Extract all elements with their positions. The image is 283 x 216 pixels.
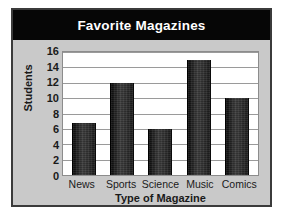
x-tick-label: Comics (220, 178, 258, 190)
chart-figure: Favorite Magazines Students 16 14 12 10 … (11, 8, 272, 207)
x-tick-label: News (63, 178, 101, 190)
y-tick-label: 2 (53, 155, 59, 166)
x-axis-label: Type of Magazine (62, 192, 259, 204)
bar (225, 98, 249, 175)
chart-title-banner: Favorite Magazines (13, 10, 270, 40)
x-tick-label: Music (181, 178, 219, 190)
y-tick-label: 4 (53, 139, 59, 150)
y-tick-label: 6 (53, 124, 59, 135)
y-axis-label: Students (22, 58, 34, 118)
x-tick-label: Sports (102, 178, 140, 190)
chart-title: Favorite Magazines (77, 18, 205, 33)
y-tick-label: 10 (47, 92, 59, 103)
bar-series (63, 52, 258, 175)
bar (187, 60, 211, 175)
y-tick-label: 16 (47, 46, 59, 57)
bar (72, 123, 96, 175)
y-axis-tick-labels: 16 14 12 10 8 6 4 2 0 (35, 51, 59, 176)
y-tick-label: 12 (47, 77, 59, 88)
y-tick-label: 0 (53, 171, 59, 182)
x-axis-tick-labels: News Sports Science Music Comics (62, 178, 259, 190)
y-tick-label: 8 (53, 108, 59, 119)
y-tick-label: 14 (47, 61, 59, 72)
plot-area (62, 51, 259, 176)
x-tick-label: Science (141, 178, 179, 190)
bar (110, 83, 134, 175)
chart-body: Students 16 14 12 10 8 6 4 2 0 News Spor… (13, 40, 270, 205)
bar (148, 129, 172, 175)
